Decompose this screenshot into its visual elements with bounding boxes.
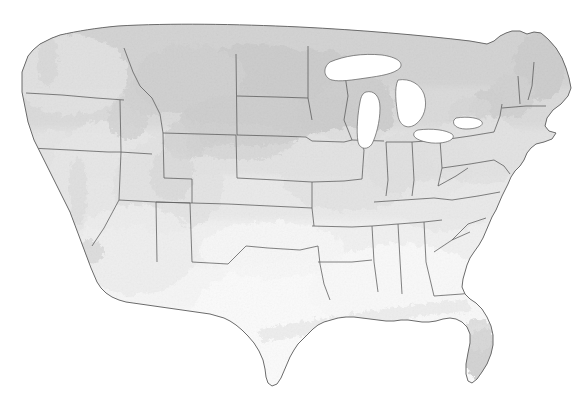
us-choropleth-map [0, 0, 582, 397]
lake-ontario [454, 117, 483, 129]
figure-canvas: Grayscale raster map of the contiguous U… [0, 0, 582, 397]
